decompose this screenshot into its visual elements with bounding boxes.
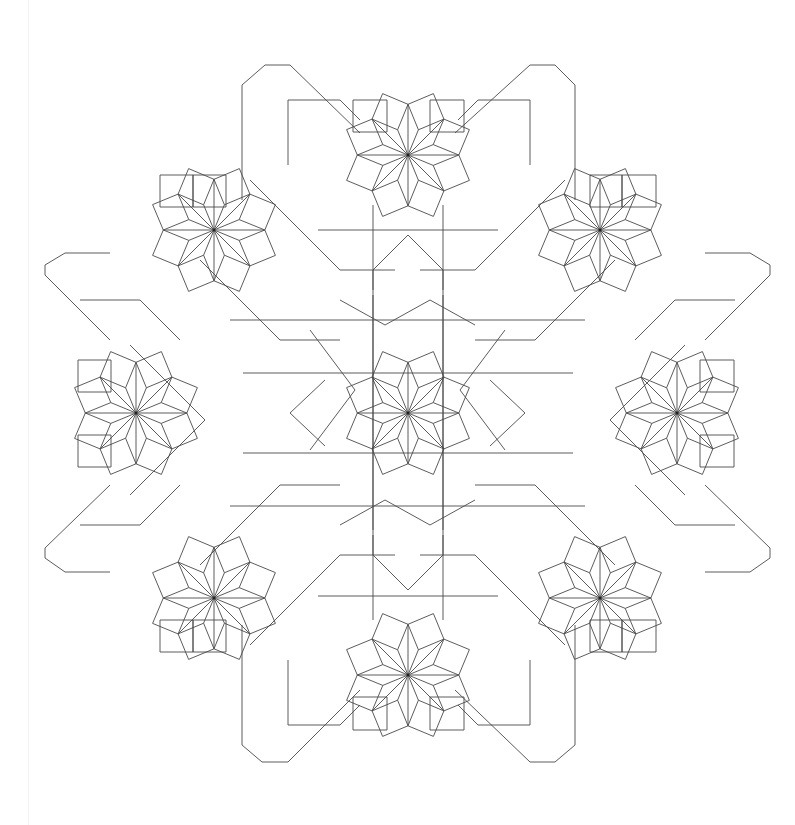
rosette-spoke xyxy=(564,598,600,634)
connector-line xyxy=(200,485,340,565)
connector-line xyxy=(373,535,408,590)
rosette-petal-edge xyxy=(347,388,358,413)
rosette-petal-edge xyxy=(347,180,373,191)
connector-line xyxy=(420,555,565,645)
connector-line xyxy=(373,235,408,290)
rosette-petal-edge xyxy=(625,266,636,292)
rosette-petal-edge xyxy=(250,562,276,573)
rosette-petal-edge xyxy=(408,206,433,217)
rosette-petal-edge xyxy=(636,194,662,205)
rosette-petal-edge xyxy=(372,94,383,120)
rosette-petal-edge xyxy=(625,537,636,563)
rosette-petal-edge xyxy=(250,194,276,205)
rosette-petal-edge xyxy=(575,281,600,292)
rosette-petal-edge xyxy=(153,573,164,598)
rosette-petal-edge xyxy=(383,614,408,625)
outer-frame-segment xyxy=(705,253,770,275)
rosette-petal-edge xyxy=(651,230,662,255)
rosette-petal-edge xyxy=(347,639,373,650)
rosette-center xyxy=(347,352,470,475)
rosette-petal-edge xyxy=(616,377,642,388)
rosette-petal-edge xyxy=(265,230,276,255)
rosette-spoke xyxy=(214,230,250,266)
outer-frame-segment xyxy=(45,253,110,275)
rosette-petal-edge xyxy=(459,130,470,155)
rosette-bottom-right xyxy=(539,537,662,660)
rosette-spoke xyxy=(564,230,600,266)
rosette-petal-edge xyxy=(433,191,444,217)
rosette-petal-edge xyxy=(728,388,739,413)
rosette-petal-edge xyxy=(459,155,470,180)
rosette-petal-edge xyxy=(178,169,189,195)
rosette-spoke xyxy=(600,598,636,634)
rosette-petal-edge xyxy=(459,413,470,438)
rosette-petal-edge xyxy=(444,438,470,449)
outer-square xyxy=(160,175,193,207)
geometric-star-pattern xyxy=(0,0,795,825)
rosette-petal-edge xyxy=(189,169,214,180)
rosette-petal-edge xyxy=(651,573,662,598)
rosette-petal-edge xyxy=(408,464,433,475)
rosette-petal-edge xyxy=(433,94,444,120)
outer-frame-segment xyxy=(705,275,770,340)
rosette-top-right xyxy=(539,169,662,292)
connector-line xyxy=(475,485,615,565)
rosette-spoke xyxy=(564,562,600,598)
rosette-petal-edge xyxy=(564,537,575,563)
rosette-petal-edge xyxy=(347,155,358,180)
rosette-petal-edge xyxy=(347,130,358,155)
rosette-petal-edge xyxy=(625,634,636,660)
rosette-petal-edge xyxy=(372,711,383,737)
rosette-petal-edge xyxy=(214,649,239,660)
outer-frame-segment xyxy=(455,690,575,762)
rosettes-layer xyxy=(75,94,739,737)
rosette-spoke xyxy=(372,155,408,191)
rosette-petal-edge xyxy=(111,464,136,475)
rosette-petal-edge xyxy=(408,352,433,363)
rosette-petal-edge xyxy=(564,634,575,660)
rosette-spoke xyxy=(641,413,677,449)
rosette-spoke xyxy=(408,119,444,155)
rosette-spoke xyxy=(564,194,600,230)
rosette-petal-edge xyxy=(677,352,702,363)
outer-square xyxy=(700,435,734,467)
connector-line xyxy=(310,330,355,450)
rosette-petal-edge xyxy=(677,464,702,475)
rosette-petal-edge xyxy=(383,94,408,105)
connector-line xyxy=(80,485,180,525)
rosette-petal-edge xyxy=(153,623,179,634)
connector-line xyxy=(290,413,325,446)
outer-frame-segment xyxy=(455,65,575,133)
rosette-petal-edge xyxy=(539,623,565,634)
rosette-petal-edge xyxy=(702,449,713,475)
connector-line xyxy=(340,500,475,525)
rosette-petal-edge xyxy=(111,352,136,363)
outer-square xyxy=(160,620,193,652)
rosette-petal-edge xyxy=(539,573,550,598)
rosette-petal-edge xyxy=(444,180,470,191)
rosette-spoke xyxy=(641,377,677,413)
rosette-petal-edge xyxy=(100,449,111,475)
rosette-bottom xyxy=(347,614,470,737)
rosette-petal-edge xyxy=(75,388,86,413)
rosette-petal-edge xyxy=(408,614,433,625)
rosette-petal-edge xyxy=(433,614,444,640)
connector-line xyxy=(458,100,530,120)
rosette-spoke xyxy=(408,675,444,711)
rosette-spoke xyxy=(408,155,444,191)
rosette-petal-edge xyxy=(600,537,625,548)
outer-frame-segment xyxy=(45,548,110,572)
rosette-petal-edge xyxy=(153,230,164,255)
connector-line xyxy=(458,705,530,725)
rosette-petal-edge xyxy=(383,352,408,363)
rosette-petal-edge xyxy=(383,464,408,475)
rosette-spoke xyxy=(677,377,713,413)
rosette-top xyxy=(347,94,470,217)
rosette-petal-edge xyxy=(189,537,214,548)
rosette-petal-edge xyxy=(636,623,662,634)
rosette-spoke xyxy=(372,413,408,449)
rosette-petal-edge xyxy=(347,119,373,130)
rosette-petal-edge xyxy=(178,634,189,660)
connector-line xyxy=(490,413,525,446)
rosette-spoke xyxy=(100,377,136,413)
